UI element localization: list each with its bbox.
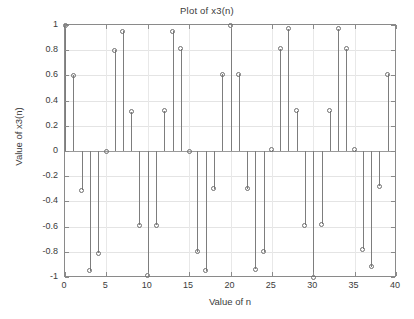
- y-tick-mark: [391, 126, 395, 127]
- stem-line: [264, 151, 265, 252]
- stem-line: [156, 151, 157, 225]
- x-tick-mark: [148, 25, 149, 29]
- stem-line: [148, 151, 149, 276]
- x-tick-mark: [396, 272, 397, 276]
- stem-line: [322, 151, 323, 224]
- stem-line: [181, 49, 182, 151]
- x-tick-label: 25: [256, 281, 286, 290]
- stem-line: [363, 151, 364, 249]
- y-tick-mark: [65, 227, 69, 228]
- data-point-marker: [261, 249, 266, 254]
- stem-line: [346, 49, 347, 151]
- data-point-marker: [286, 26, 291, 31]
- data-point-marker: [336, 26, 341, 31]
- stem-line: [139, 151, 140, 225]
- stem-line: [123, 31, 124, 151]
- x-tick-label: 15: [173, 281, 203, 290]
- x-tick-label: 20: [215, 281, 245, 290]
- y-tick-mark: [391, 151, 395, 152]
- y-tick-label: 0.8: [6, 45, 58, 54]
- y-tick-mark: [391, 75, 395, 76]
- x-tick-mark: [272, 25, 273, 29]
- y-tick-mark: [391, 25, 395, 26]
- stem-line: [197, 151, 198, 252]
- data-point-marker: [96, 251, 101, 256]
- y-tick-mark: [391, 277, 395, 278]
- stem-line: [280, 49, 281, 151]
- data-point-marker: [236, 72, 241, 77]
- x-tick-label: 40: [380, 281, 410, 290]
- x-tick-label: 5: [90, 281, 120, 290]
- x-tick-mark: [148, 272, 149, 276]
- y-axis-label: Value of x3(n): [13, 67, 24, 207]
- x-axis-label: Value of n: [64, 296, 396, 307]
- data-point-marker: [203, 268, 208, 273]
- data-point-marker: [327, 108, 332, 113]
- y-tick-mark: [65, 75, 69, 76]
- x-tick-mark: [313, 272, 314, 276]
- data-point-marker: [377, 184, 382, 189]
- stem-line: [247, 151, 248, 189]
- x-tick-mark: [231, 272, 232, 276]
- y-tick-mark: [391, 227, 395, 228]
- plot-axes-area: [64, 24, 396, 277]
- y-tick-mark: [65, 101, 69, 102]
- data-point-marker: [253, 267, 258, 272]
- stem-line: [131, 112, 132, 151]
- data-point-marker: [137, 223, 142, 228]
- x-tick-mark: [355, 272, 356, 276]
- y-tick-mark: [391, 201, 395, 202]
- x-tick-mark: [313, 25, 314, 29]
- stem-line: [239, 74, 240, 151]
- stem-line: [98, 151, 99, 253]
- stem-line: [338, 29, 339, 151]
- stem-line: [73, 75, 74, 151]
- stem-line: [297, 111, 298, 151]
- y-axis-label-wrapper: Value of x3(n): [0, 0, 1, 1]
- stem-line: [214, 151, 215, 189]
- stem-line: [255, 151, 256, 269]
- y-tick-mark: [65, 126, 69, 127]
- data-point-marker: [162, 108, 167, 113]
- stem-line: [115, 50, 116, 151]
- stem-line: [222, 74, 223, 151]
- stem-line: [330, 111, 331, 151]
- chart-title: Plot of x3(n): [0, 5, 414, 16]
- stem-line: [90, 151, 91, 271]
- data-point-marker: [112, 48, 117, 53]
- stem-line: [206, 151, 207, 271]
- x-tick-mark: [65, 272, 66, 276]
- data-point-marker: [385, 72, 390, 77]
- y-tick-mark: [65, 176, 69, 177]
- y-tick-mark: [391, 176, 395, 177]
- x-tick-label: 10: [132, 281, 162, 290]
- data-point-marker: [220, 72, 225, 77]
- stem-line: [371, 151, 372, 267]
- x-tick-label: 0: [49, 281, 79, 290]
- y-tick-label: -0.6: [6, 221, 58, 230]
- y-tick-mark: [65, 50, 69, 51]
- stem-plot-figure: Plot of x3(n) 10.80.60.40.20-0.2-0.4-0.6…: [0, 0, 414, 319]
- stem-line: [65, 25, 66, 151]
- x-tick-mark: [355, 25, 356, 29]
- x-tick-mark: [396, 25, 397, 29]
- y-tick-mark: [65, 151, 69, 152]
- data-point-marker: [120, 29, 125, 34]
- data-point-marker: [245, 186, 250, 191]
- stem-line: [164, 111, 165, 151]
- data-point-marker: [129, 109, 134, 114]
- stem-line: [379, 151, 380, 186]
- y-tick-mark: [65, 277, 69, 278]
- stem-line: [388, 74, 389, 151]
- stem-line: [82, 151, 83, 190]
- y-tick-mark: [391, 101, 395, 102]
- data-point-marker: [294, 108, 299, 113]
- x-tick-mark: [189, 25, 190, 29]
- data-point-marker: [104, 149, 109, 154]
- x-tick-mark: [65, 25, 66, 29]
- data-point-marker: [211, 186, 216, 191]
- x-tick-mark: [106, 25, 107, 29]
- y-tick-mark: [65, 201, 69, 202]
- stem-line: [231, 25, 232, 151]
- x-tick-mark: [231, 25, 232, 29]
